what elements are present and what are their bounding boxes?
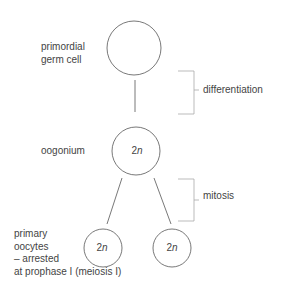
connector-line <box>107 178 122 224</box>
differentiation-bracket <box>178 71 199 114</box>
primary-oocytes-label: primary oocytes – arrested at prophase I… <box>14 228 121 278</box>
ploidy-variable: n <box>172 242 178 253</box>
primordial-germ-cell-label: primordial germ cell <box>41 41 85 66</box>
label-line: germ cell <box>41 54 85 67</box>
oogonium-label: oogonium <box>41 145 85 158</box>
connector-line <box>154 178 171 224</box>
oogonium-ploidy: 2n <box>122 145 152 156</box>
primordial-germ-cell-circle <box>107 21 161 75</box>
label-line: primary <box>14 228 121 241</box>
label-line: at prophase I (meiosis I) <box>14 266 121 279</box>
differentiation-label: differentiation <box>203 84 263 97</box>
oocyte-left-ploidy: 2n <box>87 242 117 253</box>
oocyte-right-ploidy: 2n <box>157 242 187 253</box>
mitosis-bracket <box>178 179 199 221</box>
ploidy-variable: n <box>102 242 108 253</box>
mitosis-label: mitosis <box>203 190 234 203</box>
label-line: primordial <box>41 41 85 54</box>
ploidy-variable: n <box>137 145 143 156</box>
label-line: – arrested <box>14 253 121 266</box>
